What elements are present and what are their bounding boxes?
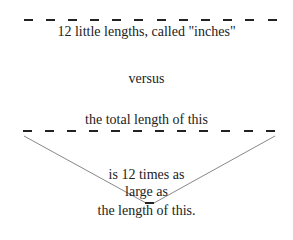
comparison-line-1: is 12 times as — [0, 167, 293, 183]
top-label: 12 little lengths, called "inches" — [0, 24, 293, 40]
total-length-label: the total length of this — [0, 112, 293, 128]
comparison-line-2: large as — [0, 184, 293, 200]
versus-label: versus — [0, 71, 293, 87]
comparison-line-3: the length of this. — [0, 203, 293, 219]
